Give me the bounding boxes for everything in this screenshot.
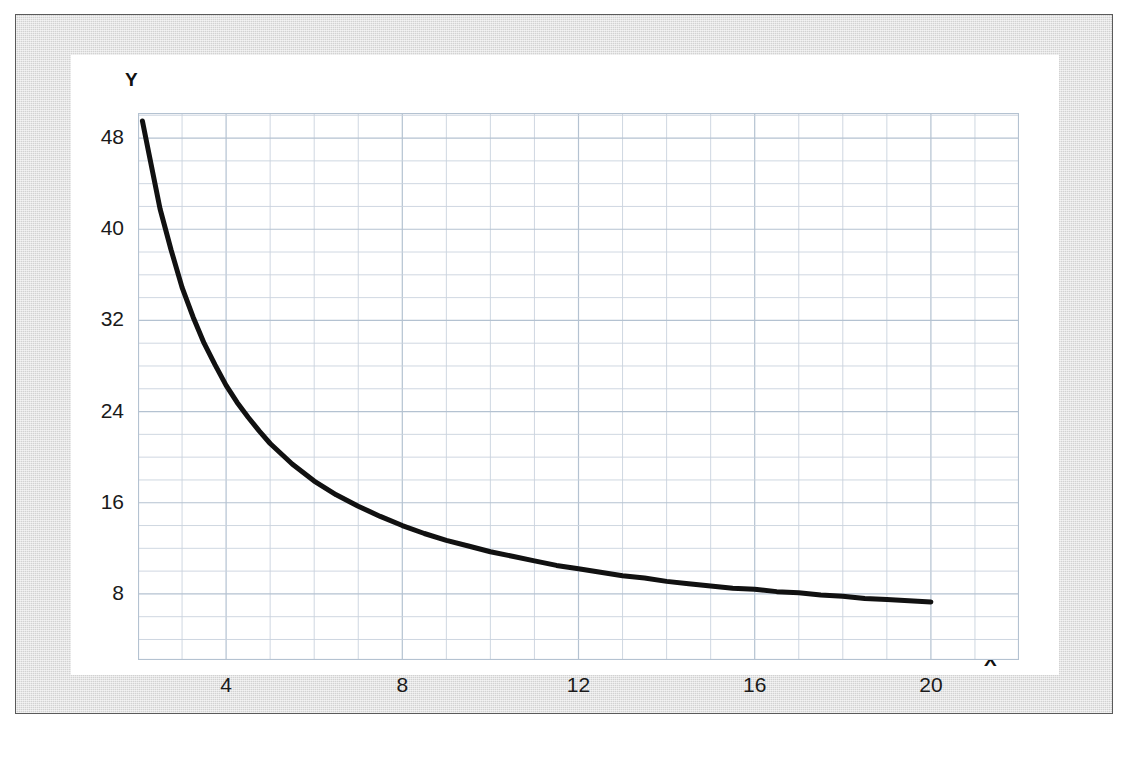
y-tick-label: 32	[80, 307, 124, 331]
figure-plate-border: Y X 81624324048 48121620	[15, 14, 1113, 714]
y-tick-label: 8	[80, 581, 124, 605]
data-curve	[138, 113, 1019, 660]
y-tick-label: 40	[80, 216, 124, 240]
x-tick-label: 16	[725, 673, 785, 697]
y-tick-label: 24	[80, 399, 124, 423]
figure-root: Y X 81624324048 48121620	[0, 0, 1132, 772]
y-tick-label: 16	[80, 490, 124, 514]
x-tick-label: 8	[372, 673, 432, 697]
y-tick-label: 48	[80, 125, 124, 149]
x-tick-label: 4	[196, 673, 256, 697]
x-tick-label: 12	[549, 673, 609, 697]
x-tick-label: 20	[901, 673, 961, 697]
chart-card: Y X 81624324048 48121620	[71, 55, 1059, 675]
y-axis-title: Y	[125, 69, 138, 91]
plot-area	[138, 113, 1019, 660]
